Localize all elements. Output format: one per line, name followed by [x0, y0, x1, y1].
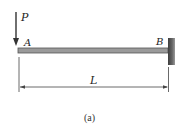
- point-a-label: A: [23, 37, 31, 48]
- load-label: P: [20, 11, 29, 24]
- fixed-support-wall: [168, 38, 175, 65]
- dimension-label: L: [89, 74, 97, 87]
- dimension-arrow-left: [20, 85, 25, 88]
- dimension-arrow-right: [163, 85, 168, 88]
- load-arrow: [13, 12, 19, 46]
- beam: [18, 48, 168, 53]
- cantilever-diagram: P A B L (a): [0, 0, 184, 131]
- point-b-label: B: [155, 36, 163, 47]
- load-arrow-head: [13, 38, 19, 46]
- figure-caption: (a): [84, 112, 95, 124]
